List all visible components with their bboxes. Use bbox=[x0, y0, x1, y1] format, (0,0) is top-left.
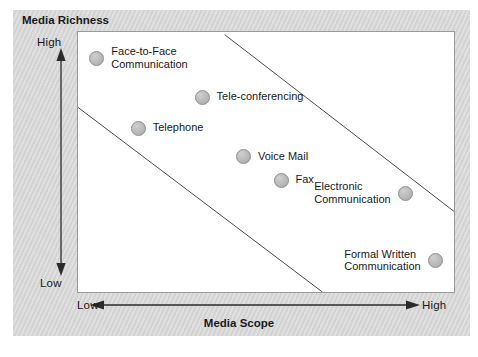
x-axis-title: Media Scope bbox=[0, 317, 478, 329]
y-axis-title: Media Richness bbox=[22, 14, 109, 26]
x-axis-arrow bbox=[90, 298, 420, 312]
data-marker bbox=[274, 173, 289, 188]
data-marker bbox=[131, 121, 146, 136]
data-point-label: Formal Written Communication bbox=[344, 248, 420, 273]
x-axis-low-label: Low bbox=[77, 299, 99, 311]
plot-area: Face-to-Face CommunicationTele-conferenc… bbox=[77, 31, 455, 293]
data-point-label: Fax bbox=[296, 173, 314, 186]
data-point-label: Tele-conferencing bbox=[217, 90, 304, 103]
lower-boundary bbox=[78, 107, 322, 292]
data-point-label: Electronic Communication bbox=[314, 180, 390, 205]
data-marker bbox=[398, 186, 413, 201]
y-axis-high-label: High bbox=[37, 36, 61, 48]
data-point-label: Face-to-Face Communication bbox=[111, 45, 187, 70]
y-axis-low-label: Low bbox=[40, 277, 62, 289]
media-richness-scope-figure: Media Richness High Low Low High Media S… bbox=[0, 0, 478, 357]
data-point-label: Telephone bbox=[153, 121, 204, 134]
data-marker bbox=[428, 253, 443, 268]
data-marker bbox=[89, 51, 104, 66]
data-point-label: Voice Mail bbox=[258, 150, 308, 163]
data-marker bbox=[195, 90, 210, 105]
y-axis-arrow bbox=[54, 48, 68, 276]
x-axis-high-label: High bbox=[422, 299, 446, 311]
